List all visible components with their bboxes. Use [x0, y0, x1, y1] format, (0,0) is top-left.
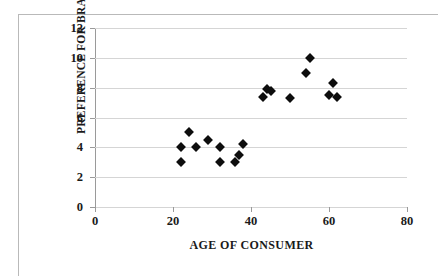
y-axis-tick-label: 12 [57, 22, 83, 35]
y-axis-tick-label: 6 [57, 112, 83, 125]
x-axis-tick-label: 40 [231, 215, 271, 228]
data-point-marker [191, 142, 201, 152]
x-axis-tick-label: 80 [387, 215, 427, 228]
data-point-marker [301, 68, 311, 78]
plot-area [95, 28, 407, 207]
data-point-marker [176, 157, 186, 167]
x-axis-tick [173, 207, 174, 212]
y-axis-tick-label: 4 [57, 141, 83, 154]
data-point-marker [184, 127, 194, 137]
x-axis-tick [407, 207, 408, 212]
data-point-marker [215, 142, 225, 152]
data-point-marker [285, 93, 295, 103]
data-point-marker [203, 135, 213, 145]
data-point-marker [176, 142, 186, 152]
x-axis-tick-label: 60 [309, 215, 349, 228]
data-point-marker [215, 157, 225, 167]
data-point-marker [332, 92, 342, 102]
x-axis-tick [329, 207, 330, 212]
data-point-marker [305, 53, 315, 63]
x-axis-tick-label: 0 [75, 215, 115, 228]
y-axis-tick-label: 10 [57, 52, 83, 65]
x-axis-tick-label: 20 [153, 215, 193, 228]
x-axis-tick [251, 207, 252, 212]
chart-screenshot: PREFERENCE FOR BRAND A AGE OF CONSUMER 0… [0, 0, 440, 279]
x-axis-title: AGE OF CONSUMER [95, 238, 408, 253]
data-point-marker [238, 139, 248, 149]
x-axis-tick [95, 207, 96, 212]
y-axis-tick-label: 8 [57, 82, 83, 95]
y-axis-tick-label: 0 [57, 201, 83, 214]
data-point-marker [328, 78, 338, 88]
y-axis-tick-label: 2 [57, 171, 83, 184]
